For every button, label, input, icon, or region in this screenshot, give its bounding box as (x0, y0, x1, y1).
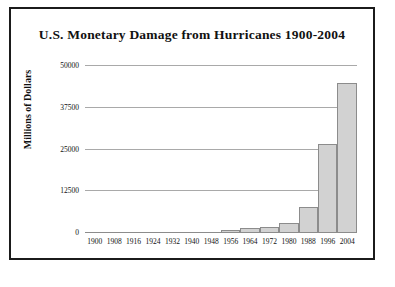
bar (337, 83, 356, 233)
x-axis-tick-label: 1900 (85, 237, 104, 246)
bar-cell (299, 66, 318, 233)
x-axis-tick-label: 1908 (104, 237, 123, 246)
y-axis-tick-label: 25000 (60, 144, 79, 153)
x-axis-tick-label: 1996 (318, 237, 337, 246)
bar-cell (240, 66, 259, 233)
bar-cell (260, 66, 279, 233)
bar-cell (337, 66, 356, 233)
bar-cell (221, 66, 240, 233)
x-axis-tick-label: 1932 (163, 237, 182, 246)
bar-cell (279, 66, 298, 233)
x-axis-tick-label: 1956 (221, 237, 240, 246)
x-axis-tick-label: 1964 (240, 237, 259, 246)
chart-frame: U.S. Monetary Damage from Hurricanes 190… (9, 7, 375, 260)
bar-cell (124, 66, 143, 233)
x-axis-tick-label: 1924 (143, 237, 162, 246)
x-axis-tick-label: 1972 (260, 237, 279, 246)
x-axis-line (85, 232, 357, 233)
x-axis-tick-label: 1948 (202, 237, 221, 246)
y-axis-tick-label: 37500 (60, 102, 79, 111)
y-axis-label: Millions of Dollars (22, 50, 33, 170)
bar-cell (85, 66, 104, 233)
y-axis-tick-label: 12500 (60, 186, 79, 195)
bar-cell (143, 66, 162, 233)
bar-cell (182, 66, 201, 233)
plot-area: 012500250003750050000 (85, 66, 357, 233)
x-axis-tick-label: 1988 (299, 237, 318, 246)
x-axis-tick-label: 1980 (279, 237, 298, 246)
bar (299, 207, 318, 233)
y-axis-tick-label: 0 (75, 228, 79, 237)
bar (318, 144, 337, 234)
x-axis-tick-label: 1940 (182, 237, 201, 246)
chart-title: U.S. Monetary Damage from Hurricanes 190… (11, 27, 373, 43)
bar-cell (163, 66, 182, 233)
bar-cell (318, 66, 337, 233)
bar-cell (104, 66, 123, 233)
x-axis-tick-label: 2004 (337, 237, 356, 246)
bar-cell (202, 66, 221, 233)
x-axis-tick-label: 1916 (124, 237, 143, 246)
x-axis-tick-labels: 1900190819161924193219401948195619641972… (85, 237, 357, 246)
bar-series (85, 66, 357, 233)
y-axis-tick-label: 50000 (60, 61, 79, 70)
